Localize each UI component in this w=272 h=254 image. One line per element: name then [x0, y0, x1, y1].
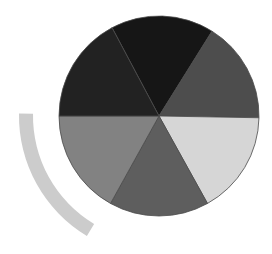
pie-diagram: [0, 0, 272, 254]
pie-diagram-canvas: [0, 0, 272, 254]
pie-chart: [59, 16, 259, 216]
